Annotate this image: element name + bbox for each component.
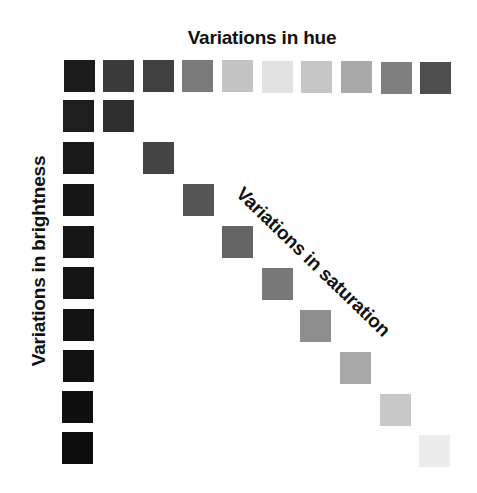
hue-swatch [420, 62, 451, 94]
brightness-swatch [63, 184, 94, 216]
brightness-swatch [63, 350, 94, 382]
brightness-swatch [63, 267, 94, 299]
hue-swatch [103, 60, 134, 92]
hue-swatch [182, 60, 213, 92]
saturation-swatch [262, 268, 293, 300]
saturation-swatch [222, 226, 253, 258]
saturation-swatch [300, 310, 331, 342]
saturation-swatch [143, 142, 174, 174]
saturation-swatch [340, 352, 371, 384]
brightness-swatch [62, 432, 93, 464]
hue-swatch [301, 61, 332, 93]
brightness-swatch [63, 226, 94, 258]
hue-swatch [381, 62, 412, 94]
brightness-label: Variations in brightness [28, 156, 50, 367]
hue-label: Variations in hue [181, 27, 343, 49]
brightness-swatch [63, 309, 94, 341]
brightness-swatch [63, 142, 94, 174]
brightness-swatch [63, 100, 94, 132]
hue-swatch [143, 60, 174, 92]
saturation-swatch [419, 435, 450, 467]
saturation-swatch [380, 394, 411, 426]
saturation-swatch [183, 184, 214, 216]
hue-swatch [262, 61, 293, 93]
brightness-swatch [62, 391, 93, 423]
hue-swatch [222, 60, 253, 92]
hue-swatch [64, 60, 95, 92]
saturation-swatch [103, 100, 134, 132]
hue-swatch [341, 61, 372, 93]
